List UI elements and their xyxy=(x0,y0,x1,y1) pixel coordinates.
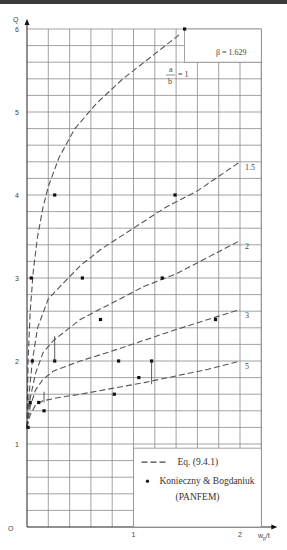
chart: 1.523512345612QOwp/tβ = 1.629ab= 1 Eq. (… xyxy=(0,0,287,550)
beta-annotation: β = 1.629 xyxy=(216,48,247,57)
data-point xyxy=(31,359,34,362)
data-point xyxy=(42,409,45,412)
curve-1 xyxy=(27,33,181,427)
data-point xyxy=(173,193,176,196)
y-axis-label: Q xyxy=(13,16,19,24)
y-tick-label: 5 xyxy=(15,109,19,116)
data-point xyxy=(183,27,186,30)
legend: Eq. (9.4.1)Konieczny & Bogdaniuk(PANFEM) xyxy=(134,448,262,527)
x-tick-label: 2 xyxy=(238,531,242,538)
x-axis-arrow-icon xyxy=(271,525,277,530)
data-point xyxy=(37,401,40,404)
data-point xyxy=(113,393,116,396)
x-axis-label: wp/t xyxy=(257,532,270,541)
curve-label: 3 xyxy=(245,311,249,320)
curve-label: 2 xyxy=(245,242,249,251)
beta-box xyxy=(185,29,262,62)
origin-label: O xyxy=(8,525,14,532)
legend-label-eq: Eq. (9.4.1) xyxy=(178,457,219,468)
y-tick-label: 2 xyxy=(15,358,19,365)
data-point xyxy=(117,359,120,362)
legend-dot-icon xyxy=(146,480,149,483)
y-axis-arrow-icon xyxy=(25,19,30,25)
data-point xyxy=(99,318,102,321)
x-tick-label: 1 xyxy=(132,531,136,538)
data-point xyxy=(53,193,56,196)
y-tick-label: 4 xyxy=(15,192,19,199)
ab-numerator: a xyxy=(169,65,173,74)
data-point xyxy=(214,318,217,321)
legend-label-panfem: (PANFEM) xyxy=(176,492,220,503)
legend-label-kb: Konieczny & Bogdaniuk xyxy=(160,476,255,486)
y-tick-label: 3 xyxy=(15,275,19,282)
curve-label-1: = 1 xyxy=(178,70,189,79)
data-point xyxy=(161,276,164,279)
data-point xyxy=(137,376,140,379)
curve-label: 5 xyxy=(245,362,249,371)
data-point xyxy=(29,401,32,404)
data-point xyxy=(30,276,33,279)
y-tick-label: 6 xyxy=(15,26,19,33)
ab-denominator: b xyxy=(168,77,172,86)
y-tick-label: 1 xyxy=(15,441,19,448)
data-point xyxy=(81,276,84,279)
curve-label: 1.5 xyxy=(245,163,255,172)
